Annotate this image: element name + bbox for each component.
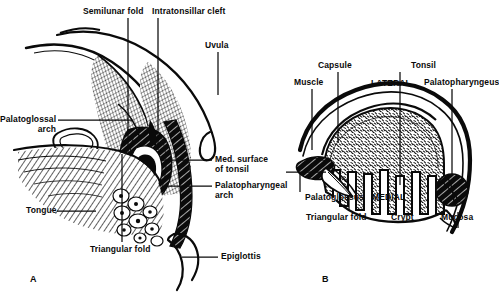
label-intratonsillar-cleft: Intratonsillar cleft <box>152 7 225 17</box>
label-triangular-fold: Triangular fold <box>90 245 151 255</box>
label-palatoglossal-arch: Palatoglossal arch <box>0 115 56 134</box>
label-medial: MEDIAL <box>372 193 405 203</box>
label-mucosa: Mucosa <box>441 213 473 223</box>
label-lateral: LATERAL <box>371 79 411 89</box>
label-muscle: Muscle <box>294 78 323 88</box>
label-uvula: Uvula <box>205 41 229 51</box>
panel-label-a: A <box>30 274 37 284</box>
label-epiglottis: Epiglottis <box>221 252 261 262</box>
label-palatoglossus: Palatoglossus <box>305 193 364 203</box>
label-triangular-fold-b: Triangular fold <box>306 213 367 223</box>
label-crypt: Crypt <box>391 213 414 223</box>
label-capsule: Capsule <box>318 61 352 71</box>
label-tongue: Tongue <box>26 206 57 216</box>
label-palatopharyngeal-arch: Palatopharyngeal arch <box>215 181 287 200</box>
label-palatopharyngeus: Palatopharyngeus <box>424 78 499 88</box>
panel-label-b: B <box>322 274 329 284</box>
label-med-surface-of-tonsil: Med. surface of tonsil <box>215 155 268 174</box>
label-tonsil: Tonsil <box>411 61 436 71</box>
label-semilunar-fold: Semilunar fold <box>83 7 143 17</box>
